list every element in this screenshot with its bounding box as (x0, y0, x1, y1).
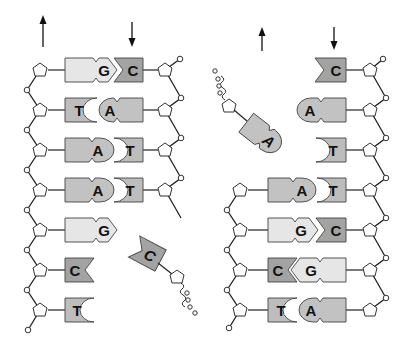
phosphate-icon (188, 305, 192, 309)
svg-text:A: A (93, 182, 104, 199)
base-A (65, 138, 114, 162)
svg-text:A: A (297, 182, 308, 199)
left-dna-molecule: G C T A A T A T G (24, 56, 197, 333)
sugar-icon (363, 143, 377, 156)
phosphate-icon (383, 295, 389, 301)
unpaired-base-C: C (65, 258, 94, 282)
phosphate-icon (178, 175, 184, 181)
svg-text:A: A (93, 142, 104, 159)
base-pair-A-T: A T (65, 178, 143, 202)
base-A (268, 178, 316, 202)
sugar-icon (363, 263, 377, 276)
phosphate-icon (24, 127, 30, 133)
phosphate-icon (383, 175, 389, 181)
svg-text:T: T (72, 302, 81, 319)
base-label: G (98, 62, 110, 79)
svg-text:G: G (295, 222, 307, 239)
base-G (268, 218, 318, 242)
sugar-icon (233, 183, 247, 196)
svg-text:T: T (125, 142, 134, 159)
sugar-icon (363, 223, 377, 236)
phosphate-icon (178, 95, 184, 101)
svg-text:T: T (328, 182, 337, 199)
sugar-icon (233, 223, 247, 236)
svg-text:T: T (328, 142, 337, 159)
phosphate-icon (186, 298, 190, 302)
phosphate-icon (185, 291, 189, 295)
svg-text:T: T (276, 302, 285, 319)
phosphate-icon (24, 167, 30, 173)
sugar-icon (33, 63, 47, 76)
phosphate-icon (24, 207, 30, 213)
phosphate-icon (226, 325, 232, 331)
sugar-icon (158, 63, 172, 76)
base-pair-T-A: T A (65, 98, 143, 122)
unpaired-base-T: T (316, 138, 346, 162)
base-pair-C-G: C G (268, 258, 346, 282)
base-pair-G-C: G C (65, 58, 143, 82)
sugar-icon (158, 143, 172, 156)
sugar-icon (158, 103, 172, 116)
svg-text:C: C (273, 262, 284, 279)
free-nucleotide-A: A (213, 69, 287, 158)
phosphate-icon (217, 84, 221, 88)
phosphate-icon (193, 311, 197, 315)
svg-text:T: T (125, 182, 134, 199)
phosphate-icon (24, 287, 30, 293)
arrow-up-icon (40, 15, 47, 47)
right-dna-molecule: C A T A T G C C G (213, 56, 389, 331)
svg-text:A: A (306, 302, 317, 319)
phosphate-icon (383, 215, 389, 221)
svg-text:C: C (331, 222, 342, 239)
sugar-icon (363, 303, 377, 316)
phosphate-icon (224, 207, 230, 213)
sugar-icon (222, 99, 236, 112)
dna-replication-diagram: G C T A A T A T G (0, 0, 411, 344)
base-pair-G-C: G C (268, 218, 346, 242)
phosphate-icon (224, 247, 230, 253)
svg-text:T: T (74, 102, 83, 119)
base-label: C (128, 62, 139, 79)
sugar-icon (158, 183, 172, 196)
svg-text:G: G (98, 222, 110, 239)
sugar-icon (233, 303, 247, 316)
svg-text:C: C (70, 262, 81, 279)
svg-text:C: C (331, 62, 342, 79)
unpaired-base-G: G (65, 218, 117, 242)
arrow-up-icon (259, 27, 266, 51)
svg-text:A: A (105, 102, 116, 119)
sugar-icon (170, 270, 184, 283)
arrow-down-icon (129, 22, 136, 47)
base-A (65, 178, 114, 202)
base-pair-A-T: A T (268, 178, 346, 202)
phosphate-icon (24, 247, 30, 253)
unpaired-base-C: C (315, 58, 346, 82)
arrow-down-icon (331, 27, 338, 50)
phosphate-icon (224, 287, 230, 293)
free-nucleotide-C: C (128, 236, 197, 315)
unpaired-base-T: T (65, 298, 94, 322)
sugar-icon (233, 263, 247, 276)
phosphate-icon (380, 56, 386, 62)
sugar-icon (33, 103, 47, 116)
phosphate-icon (383, 95, 389, 101)
sugar-icon (33, 263, 47, 276)
sugar-icon (33, 303, 47, 316)
svg-text:A: A (305, 102, 316, 119)
phosphate-icon (213, 69, 217, 73)
sugar-icon (33, 143, 47, 156)
unpaired-base-A: A (297, 98, 346, 122)
base-G (291, 258, 346, 282)
svg-text:G: G (305, 262, 317, 279)
sugar-icon (363, 103, 377, 116)
phosphate-icon (178, 135, 184, 141)
base-pair-A-T: A T (65, 138, 143, 162)
phosphate-icon (216, 77, 220, 81)
phosphate-icon (24, 87, 30, 93)
base-pair-T-A: T A (268, 298, 346, 322)
sugar-icon (33, 223, 47, 236)
sugar-icon (363, 63, 377, 76)
phosphate-icon (218, 91, 222, 95)
phosphate-icon (25, 327, 31, 333)
phosphate-icon (177, 56, 183, 62)
